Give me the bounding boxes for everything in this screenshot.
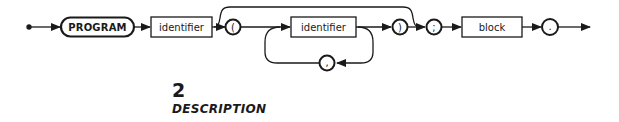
comma-label: ,: [325, 57, 328, 68]
start-dot: [27, 25, 31, 29]
period-label: .: [548, 21, 551, 32]
section-number: 2: [172, 80, 185, 100]
close-paren-label: ): [398, 22, 402, 33]
block-label: block: [479, 22, 506, 33]
open-paren-label: (: [231, 22, 235, 33]
program-keyword-label: PROGRAM: [68, 22, 127, 33]
semicolon-label: ;: [432, 22, 435, 33]
program-identifier-label: identifier: [159, 22, 205, 33]
section-title: DESCRIPTION: [172, 102, 266, 116]
parameter-identifier-label: identifier: [301, 22, 347, 33]
program-syntax-diagram: PROGRAM identifier ( identifier , ) ; bl…: [0, 0, 619, 122]
